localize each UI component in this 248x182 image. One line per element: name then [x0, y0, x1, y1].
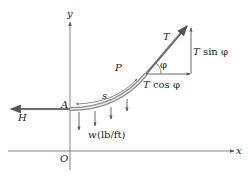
load-w-label: w: [88, 129, 97, 140]
horizontal-tension-label: H: [17, 112, 27, 123]
load-units-label: (lb/ft): [97, 129, 126, 140]
t-sin-t-label: T: [193, 46, 201, 57]
arc-length-label: s: [102, 90, 107, 101]
point-a-label: A: [60, 99, 68, 110]
origin-label: O: [60, 153, 68, 164]
tension-label: T: [163, 31, 171, 42]
t-sin-rest-label: sin φ: [203, 46, 228, 57]
point-p-label: P: [114, 62, 122, 73]
t-cos-rest-label: cos φ: [153, 79, 180, 90]
cable-free-body-diagram: y x O H s A P w (lb/ft) T T cos φ: [0, 0, 248, 182]
angle-phi-label: φ: [160, 59, 167, 70]
y-axis-label: y: [66, 8, 73, 19]
x-axis-label: x: [236, 145, 242, 156]
t-cos-t-label: T: [143, 79, 151, 90]
